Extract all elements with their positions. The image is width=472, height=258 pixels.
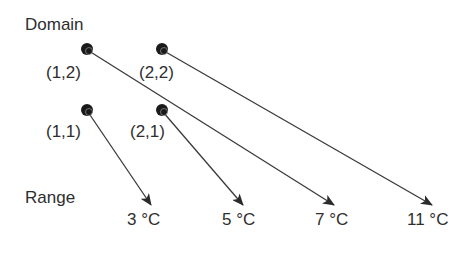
domain-label-2-1: (2,1) (130, 123, 165, 140)
dot-1-1 (81, 104, 93, 116)
range-value-5c: 5 °C (222, 211, 255, 228)
dot-2-2 (156, 43, 168, 55)
range-value-3c: 3 °C (127, 211, 160, 228)
arrow-2-1-to-5c (163, 112, 243, 205)
range-value-11c: 11 °C (407, 211, 448, 228)
domain-label-1-2: (1,2) (46, 64, 81, 81)
domain-label-1-1: (1,1) (46, 123, 81, 140)
dot-2-1 (156, 104, 168, 116)
dot-1-2 (81, 43, 93, 55)
domain-label-2-2: (2,2) (139, 64, 174, 81)
range-heading: Range (25, 189, 75, 206)
domain-heading: Domain (25, 16, 84, 33)
range-value-7c: 7 °C (315, 211, 348, 228)
